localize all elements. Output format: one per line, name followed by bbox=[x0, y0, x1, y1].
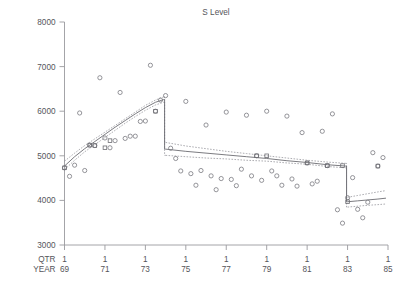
data-point bbox=[78, 111, 82, 115]
data-point bbox=[174, 156, 178, 160]
data-point bbox=[290, 177, 294, 181]
data-point bbox=[67, 174, 71, 178]
confidence-band-lines bbox=[65, 97, 386, 207]
fitted-regression-lines bbox=[65, 100, 386, 202]
y-tick-label: 6000 bbox=[37, 107, 56, 116]
upper-confidence-band bbox=[65, 97, 164, 161]
data-point bbox=[148, 63, 152, 67]
data-point bbox=[356, 207, 360, 211]
y-tick-label: 3000 bbox=[37, 241, 56, 250]
data-point bbox=[330, 112, 334, 116]
data-point bbox=[184, 99, 188, 103]
x-tick-label: 1 bbox=[224, 255, 229, 264]
data-point bbox=[371, 151, 375, 155]
y-tick-label: 8000 bbox=[37, 18, 56, 27]
fitted-value-marker bbox=[103, 146, 107, 150]
x-tick-label: 71 bbox=[100, 265, 110, 274]
data-point bbox=[189, 172, 193, 176]
upper-confidence-band bbox=[166, 142, 346, 163]
data-point-markers bbox=[62, 63, 385, 225]
data-point bbox=[249, 174, 253, 178]
data-point bbox=[199, 168, 203, 172]
data-point bbox=[285, 114, 289, 118]
data-point bbox=[234, 184, 238, 188]
x-tick-label: 69 bbox=[60, 265, 70, 274]
data-point bbox=[351, 176, 355, 180]
x-tick-label: 1 bbox=[345, 255, 350, 264]
fitted-value-marker bbox=[108, 139, 112, 143]
x-tick-label: 1 bbox=[143, 255, 148, 264]
data-point bbox=[229, 177, 233, 181]
x-tick-label: 1 bbox=[184, 255, 189, 264]
data-point bbox=[244, 113, 248, 117]
data-point bbox=[128, 134, 132, 138]
x-tick-label: 1 bbox=[103, 255, 108, 264]
data-point bbox=[133, 134, 137, 138]
data-point bbox=[143, 119, 147, 123]
data-point bbox=[209, 174, 213, 178]
data-point bbox=[204, 123, 208, 127]
x-tick-label: 1 bbox=[62, 255, 67, 264]
data-point bbox=[98, 76, 102, 80]
chart-title-group: S Level bbox=[202, 8, 229, 17]
data-point bbox=[310, 182, 314, 186]
data-point bbox=[300, 131, 304, 135]
data-point bbox=[260, 178, 264, 182]
x-axis bbox=[65, 245, 389, 250]
x-tick-label: 1 bbox=[264, 255, 269, 264]
x-tick-label: 83 bbox=[343, 265, 353, 274]
data-point bbox=[315, 179, 319, 183]
data-point bbox=[361, 216, 365, 220]
regime-break-connector bbox=[164, 100, 166, 150]
s-level-chart: S Level 300040005000600070008000 QTR1111… bbox=[0, 0, 409, 286]
data-point bbox=[320, 129, 324, 133]
fitted-line-segment bbox=[65, 100, 164, 166]
data-point bbox=[123, 136, 127, 140]
data-point bbox=[138, 119, 142, 123]
page-title: S Level bbox=[202, 8, 229, 17]
x-tick-label: 85 bbox=[383, 265, 393, 274]
x-tick-label: 1 bbox=[386, 255, 391, 264]
data-point bbox=[280, 183, 284, 187]
x-tick-label: 81 bbox=[303, 265, 313, 274]
y-tick-label: 5000 bbox=[37, 152, 56, 161]
x-tick-label: 1 bbox=[305, 255, 310, 264]
x-tick-label: 79 bbox=[262, 265, 272, 274]
x-tick-label: 73 bbox=[141, 265, 151, 274]
data-point bbox=[163, 93, 167, 97]
data-point bbox=[265, 109, 269, 113]
data-point bbox=[214, 188, 218, 192]
data-point bbox=[108, 146, 112, 150]
data-point bbox=[113, 139, 117, 143]
data-point bbox=[194, 183, 198, 187]
y-tick-label: 7000 bbox=[37, 63, 56, 72]
fitted-value-markers bbox=[63, 109, 380, 203]
data-point bbox=[118, 90, 122, 94]
x-tick-label: 75 bbox=[181, 265, 191, 274]
data-point bbox=[83, 168, 87, 172]
data-point bbox=[366, 200, 370, 204]
upper-confidence-band bbox=[348, 191, 386, 198]
data-point bbox=[103, 136, 107, 140]
data-point bbox=[335, 208, 339, 212]
data-point bbox=[73, 163, 77, 167]
y-tick-label: 4000 bbox=[37, 196, 56, 205]
lower-confidence-band bbox=[65, 102, 164, 169]
data-point bbox=[345, 196, 349, 200]
data-point bbox=[179, 169, 183, 173]
x-tick-label: 77 bbox=[222, 265, 232, 274]
data-point bbox=[219, 176, 223, 180]
data-point bbox=[275, 174, 279, 178]
x-axis-tick-labels: QTR111111111YEAR697173757779818385 bbox=[33, 255, 393, 274]
data-point bbox=[381, 155, 385, 159]
data-point bbox=[224, 110, 228, 114]
data-point bbox=[270, 169, 274, 173]
x-axis-row-header: QTR bbox=[38, 255, 55, 264]
data-point bbox=[239, 167, 243, 171]
chart-container: S Level 300040005000600070008000 QTR1111… bbox=[0, 0, 409, 286]
x-axis-row-header: YEAR bbox=[33, 265, 55, 274]
data-point bbox=[295, 184, 299, 188]
data-point bbox=[340, 221, 344, 225]
y-axis: 300040005000600070008000 bbox=[37, 18, 64, 250]
